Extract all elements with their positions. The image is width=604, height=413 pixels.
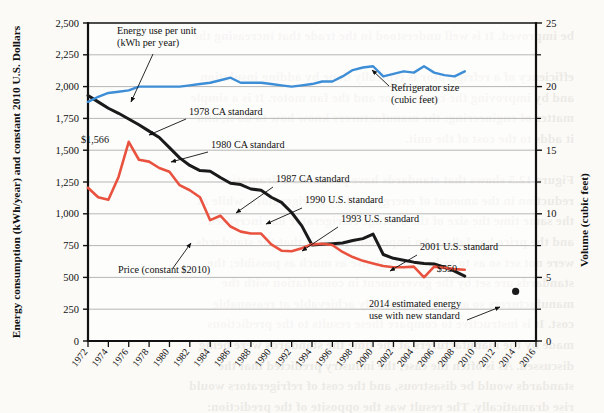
value-label-price-peak-label: $1,566 [81,134,109,145]
y-tick-label-left: 2,000 [55,81,79,92]
annotation-label: 1993 U.S. standard [341,213,419,224]
y-tick-label-left: 500 [63,272,79,283]
x-tick-label: 1988 [232,346,253,368]
x-tick-label: 2000 [354,346,375,368]
x-tick-label: 2014 [496,346,517,368]
x-tick-label: 1998 [334,346,355,368]
x-tick-label: 2004 [395,346,416,368]
x-tick-label: 2008 [435,346,456,368]
x-tick-label: 1972 [69,346,90,368]
refrigerator-energy-chart: 02505007501,0001,2501,5001,7502,0002,250… [0,0,604,413]
x-tick-label: 1976 [110,346,131,368]
y-tick-label-left: 1,500 [55,145,79,156]
y-tick-label-left: 750 [63,240,79,251]
y-tick-label-right: 15 [546,145,557,156]
data-point-2014-estimated-energy-use-with-new-standard [512,288,519,295]
x-tick-label: 1996 [313,346,334,368]
annotation-label: 2014 estimated energyuse with new standa… [369,298,462,321]
y-tick-label-left: 2,250 [55,49,79,60]
annotation-label: 2001 U.S. standard [420,241,498,252]
chart-svg: 02505007501,0001,2501,5001,7502,0002,250… [0,0,604,413]
annotation-label: 1978 CA standard [189,106,263,117]
y-tick-label-left: 1,250 [55,177,79,188]
x-tick-label: 2006 [415,346,436,368]
annotation-label: 1987 CA standard [276,173,350,184]
x-tick-label: 2010 [456,346,477,368]
x-tick-label: 1994 [293,346,314,368]
x-tick-label: 1974 [89,346,110,368]
y-tick-label-right: 10 [546,208,557,219]
y-tick-label-left: 0 [74,336,79,347]
value-label-price-end-label: $550 [437,263,457,274]
y-tick-label-right: 25 [546,18,557,29]
x-tick-label: 1980 [150,346,171,368]
x-tick-label: 1986 [211,346,232,368]
x-tick-label: 1984 [191,346,212,368]
y-axis-title-right: Volume (cubic feet) [578,173,591,267]
y-tick-label-left: 2,500 [55,18,79,29]
x-tick-label: 1990 [252,346,273,368]
x-tick-label: 1978 [130,346,151,368]
annotation-label: 1980 CA standard [211,139,285,150]
y-tick-label-left: 1,000 [55,208,79,219]
x-tick-label: 2012 [476,346,497,368]
y-tick-label-left: 1,750 [55,113,79,124]
x-tick-label: 1992 [272,346,293,368]
y-tick-label-right: 5 [546,272,551,283]
x-tick-label: 2002 [374,346,395,368]
annotation-label: 1990 U.S. standard [305,194,383,205]
y-tick-label-right: 0 [546,336,551,347]
y-tick-label-right: 20 [546,81,557,92]
y-axis-title-left: Energy consumption (kWh/year) and consta… [10,25,23,338]
x-tick-label: 1982 [171,346,192,368]
x-tick-label: 2016 [517,346,538,368]
y-tick-label-left: 250 [63,304,79,315]
annotation-label: Price (constant $2010) [118,264,210,276]
